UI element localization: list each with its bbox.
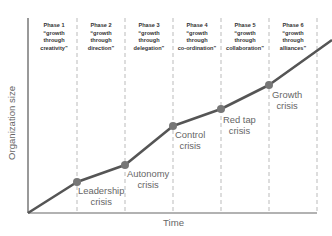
crisis-label-line: Growth (272, 89, 302, 100)
y-axis-label: Organization size (6, 86, 17, 160)
phase-6-label: Phase 6 “growth through alliances” (269, 22, 317, 52)
crisis-label-control: Control crisis (175, 129, 205, 151)
phase-quote-line: through (269, 37, 317, 45)
phase-title: Phase 2 (77, 22, 125, 30)
crisis-label-growth: Growth crisis (272, 89, 302, 111)
phase-quote-line: “growth (173, 30, 221, 38)
phase-quote-line: through (125, 37, 173, 45)
x-axis-label: Time (163, 217, 184, 228)
growth-phases-diagram: Phase 1 “growth through creativity” Phas… (0, 0, 332, 236)
phase-1-label: Phase 1 “growth through creativity” (30, 22, 78, 52)
phase-title: Phase 6 (269, 22, 317, 30)
phase-quote-line: through (77, 37, 125, 45)
phase-title: Phase 3 (125, 22, 173, 30)
phase-quote-line: through (173, 37, 221, 45)
phase-3-label: Phase 3 “growth through delegation” (125, 22, 173, 52)
phase-5-label: Phase 5 “growth through collaboration” (221, 22, 269, 52)
crisis-label-line: Red tap (223, 114, 256, 125)
phase-quote-line: through (221, 37, 269, 45)
phase-quote-line: delegation” (125, 45, 173, 53)
crisis-label-leadership: Leadership crisis (78, 185, 124, 207)
phase-title: Phase 5 (221, 22, 269, 30)
crisis-label-red-tape: Red tap crisis (223, 114, 256, 136)
phase-quote-line: “growth (30, 30, 78, 38)
phase-title: Phase 4 (173, 22, 221, 30)
phase-title: Phase 1 (30, 22, 78, 30)
crisis-label-line: Autonomy (127, 168, 169, 179)
crisis-label-line: crisis (223, 125, 256, 136)
phase-quote-line: direction” (77, 45, 125, 53)
phase-4-label: Phase 4 “growth through co-ordination” (173, 22, 221, 52)
crisis-label-line: crisis (78, 196, 124, 207)
phase-quote-line: through (30, 37, 78, 45)
crisis-point-growth (265, 81, 273, 89)
phase-quote-line: “growth (125, 30, 173, 38)
crisis-label-autonomy: Autonomy crisis (127, 168, 169, 190)
phase-quote-line: creativity” (30, 45, 78, 53)
growth-line (28, 40, 332, 213)
phase-2-label: Phase 2 “growth through direction” (77, 22, 125, 52)
crisis-label-line: crisis (272, 100, 302, 111)
crisis-label-line: Leadership (78, 185, 124, 196)
phase-quote-line: “growth (221, 30, 269, 38)
phase-quote-line: “growth (269, 30, 317, 38)
crisis-label-line: crisis (175, 140, 205, 151)
phase-quote-line: collaboration” (221, 45, 269, 53)
phase-quote-line: co-ordination” (173, 45, 221, 53)
crisis-point-red-tape (217, 105, 225, 113)
crisis-label-line: Control (175, 129, 205, 140)
phase-quote-line: alliances” (269, 45, 317, 53)
crisis-label-line: crisis (127, 179, 169, 190)
phase-quote-line: “growth (77, 30, 125, 38)
